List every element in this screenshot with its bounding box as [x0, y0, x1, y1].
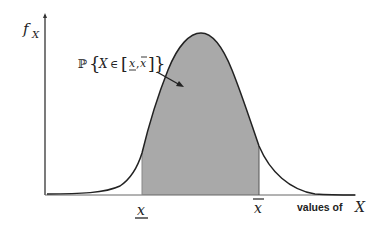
annotation-variable: X — [98, 57, 108, 71]
annotation-upper: x — [140, 57, 147, 70]
probability-annotation: ℙ { X ∈ [ x , x ] } — [78, 53, 165, 74]
x-axis-label-prefix: values of — [297, 201, 343, 213]
density-diagram: f X ℙ { X ∈ [ x , x ] } x x values of X — [0, 0, 386, 229]
y-axis-label-subscript: X — [31, 29, 40, 40]
lower-bound-label: x — [137, 202, 145, 218]
x-axis-label-variable: X — [354, 199, 366, 215]
diagram-canvas: f X ℙ { X ∈ [ x , x ] } x x values of X — [0, 0, 386, 229]
open-bracket: [ — [121, 54, 128, 74]
close-brace: } — [154, 53, 165, 74]
annotation-comma: , — [136, 57, 140, 70]
y-axis-label: f — [22, 20, 31, 38]
annotation-lower: x — [129, 57, 136, 70]
prob-symbol: ℙ — [78, 57, 87, 71]
upper-bound-label: x — [254, 200, 262, 216]
in-symbol: ∈ — [110, 58, 118, 71]
y-axis-arrowhead — [43, 13, 47, 18]
